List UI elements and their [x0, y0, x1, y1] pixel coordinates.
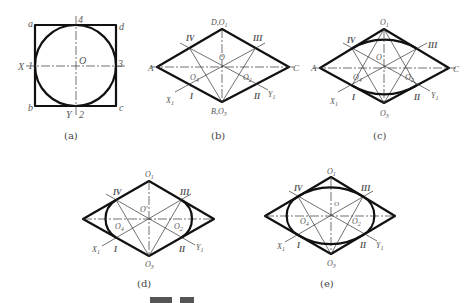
label-III: III [179, 188, 190, 197]
label-III: III [427, 41, 438, 50]
label-O4: O4 [115, 222, 124, 232]
label-Y1: Y1 [376, 241, 383, 251]
label-x: X [17, 61, 25, 72]
label-C: C [453, 64, 460, 74]
label-I: I [189, 92, 194, 101]
label-bottom: O3 [380, 109, 389, 119]
label-X1: X1 [91, 245, 100, 255]
label-O2: O2 [243, 73, 252, 83]
label-X1: X1 [165, 96, 174, 106]
label-X1: X1 [329, 97, 338, 107]
label-a: a [28, 18, 33, 29]
label-4: 4 [78, 14, 83, 25]
label-II: II [413, 93, 421, 102]
label-center: O' [140, 205, 148, 214]
label-top: O1 [145, 170, 154, 180]
label-IV: IV [293, 184, 303, 193]
caption-d: (d) [137, 278, 151, 289]
label-O4: O4 [190, 73, 199, 83]
label-1: 1 [28, 60, 33, 71]
figure: a b c d X 1 3 4 O Y 2 (a) D,O1 B,O3 A C … [0, 0, 469, 303]
label-2: 2 [79, 109, 84, 120]
figure-caption-clipped [150, 293, 330, 303]
label-O2: O2 [174, 222, 183, 232]
label-I: I [296, 241, 301, 250]
label-top: O1 [380, 18, 389, 28]
label-o: O [79, 55, 86, 66]
label-d: d [119, 21, 125, 32]
caption-a: (a) [64, 130, 78, 141]
label-3: 3 [117, 58, 123, 69]
label-center: O [219, 53, 225, 62]
label-X1: X1 [276, 242, 285, 252]
label-A: A [147, 63, 154, 73]
caption-e: (e) [320, 278, 334, 289]
label-IV: IV [185, 34, 195, 43]
label-I: I [351, 93, 356, 102]
label-II: II [178, 245, 186, 254]
label-c: c [119, 102, 124, 113]
label-IV: IV [112, 188, 122, 197]
caption-b: (b) [211, 130, 225, 141]
label-C: C [293, 63, 300, 73]
label-bottom: B,O3 [211, 107, 227, 117]
label-A: A [310, 63, 317, 73]
label-center: O [334, 200, 339, 208]
label-II: II [253, 92, 261, 101]
label-III: III [360, 184, 371, 193]
line-IV-Y1 [180, 43, 268, 90]
label-III: III [252, 34, 263, 43]
label-Y1: Y1 [268, 90, 275, 100]
label-O2: O2 [352, 217, 361, 227]
label-bottom: O3 [327, 259, 336, 269]
label-Y1: Y1 [196, 243, 203, 253]
panel-c: O1 O3 A C O O4 O2 X1 Y1 IV III II I (c) [310, 18, 460, 141]
label-II: II [359, 241, 367, 250]
label-Y1: Y1 [431, 91, 438, 101]
label-top: O1 [327, 167, 336, 177]
label-top: D,O1 [210, 18, 228, 28]
label-IV: IV [346, 36, 356, 45]
line-III-X1 [338, 43, 427, 92]
line-IV-Y1 [343, 43, 430, 91]
label-bottom: O3 [145, 260, 154, 270]
label-O4: O4 [300, 217, 309, 227]
caption-c: (c) [373, 130, 387, 141]
label-center: O [376, 53, 382, 62]
circle [35, 25, 116, 106]
caption-glyph-block [180, 297, 194, 303]
panel-b: D,O1 B,O3 A C O O4 O2 X1 Y1 IV III II I … [147, 18, 300, 141]
panel-a: a b c d X 1 3 4 O Y 2 (a) [17, 14, 126, 141]
panel-d: O1 O3 O' O4 O2 X1 Y1 IV III II I (d) [83, 170, 214, 289]
label-O2: O2 [405, 73, 414, 83]
label-O4: O4 [353, 73, 362, 83]
label-I: I [113, 245, 118, 254]
panel-e: O1 O3 O O4 O2 X1 Y1 IV III II I (e) [265, 167, 395, 289]
caption-glyph-block [150, 297, 172, 303]
line-III-X1 [175, 43, 265, 92]
label-y: Y [66, 109, 73, 120]
label-b: b [28, 102, 33, 113]
